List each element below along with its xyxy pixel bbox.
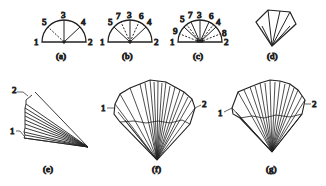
- panel-a: 1 2 3 4 5 (a): [34, 10, 93, 61]
- label-1: 1: [10, 126, 15, 136]
- label-2: 2: [312, 99, 317, 109]
- label-5: 5: [180, 14, 185, 24]
- caption-a: (a): [56, 51, 66, 61]
- panel-g: 1 2 (g): [218, 80, 317, 174]
- caption-f: (f): [152, 164, 161, 174]
- panel-c: 1 2 3 4 5 6 7 8 9 (c): [170, 10, 229, 61]
- panel-b: 1 2 3 4 5 6 7 (b): [100, 10, 159, 61]
- label-4: 4: [81, 17, 86, 27]
- panel-f: 1 2 (f): [101, 80, 207, 174]
- panel-e: 2 1 (e): [10, 85, 88, 174]
- caption-e: (e): [43, 164, 53, 174]
- label-2: 2: [12, 85, 17, 95]
- caption-b: (b): [122, 51, 133, 61]
- label-6: 6: [209, 11, 214, 21]
- caption-c: (c): [193, 51, 203, 61]
- label-3: 3: [61, 10, 66, 20]
- label-1: 1: [218, 108, 223, 118]
- label-1: 1: [170, 37, 175, 47]
- label-6: 6: [139, 11, 144, 21]
- label-7: 7: [116, 11, 121, 21]
- label-2: 2: [224, 37, 229, 47]
- label-2: 2: [88, 37, 93, 47]
- panel-d: (d): [256, 10, 296, 61]
- label-2: 2: [154, 37, 159, 47]
- label-2: 2: [202, 99, 207, 109]
- label-1: 1: [100, 37, 105, 47]
- label-1: 1: [34, 37, 39, 47]
- label-4: 4: [216, 17, 221, 27]
- caption-g: (g): [266, 164, 277, 174]
- label-9: 9: [173, 26, 178, 36]
- label-7: 7: [188, 10, 193, 20]
- label-5: 5: [108, 17, 113, 27]
- label-1: 1: [101, 103, 106, 113]
- folding-diagram: 1 2 3 4 5 (a) 1 2 3 4 5 6 7 (b) 1: [0, 0, 326, 186]
- label-8: 8: [222, 28, 227, 38]
- label-3: 3: [197, 10, 202, 20]
- caption-d: (d): [267, 51, 278, 61]
- label-4: 4: [147, 17, 152, 27]
- label-3: 3: [127, 10, 132, 20]
- label-5: 5: [42, 17, 47, 27]
